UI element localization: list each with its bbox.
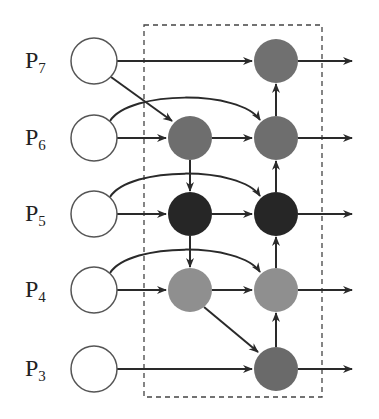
row-label-p4: P4 xyxy=(25,277,46,305)
out-node-p5 xyxy=(254,192,298,236)
row-label-p7: P7 xyxy=(25,48,46,76)
row-label-p5: P5 xyxy=(25,201,46,229)
mid-node-p6 xyxy=(168,116,212,160)
out-node-p7 xyxy=(254,39,298,83)
edge-mid4-out3 xyxy=(204,307,258,352)
row-label-p3: P3 xyxy=(25,356,46,384)
input-node-p3 xyxy=(71,346,117,392)
row-label-p6: P6 xyxy=(25,125,46,153)
input-node-p4 xyxy=(71,267,117,313)
out-node-p6 xyxy=(254,116,298,160)
diagram-canvas xyxy=(0,0,379,419)
input-node-p5 xyxy=(71,191,117,237)
mid-node-p4 xyxy=(168,268,212,312)
mid-node-p5 xyxy=(168,192,212,236)
input-node-p6 xyxy=(71,115,117,161)
out-node-p4 xyxy=(254,268,298,312)
out-node-p3 xyxy=(254,347,298,391)
input-node-p7 xyxy=(71,38,117,84)
